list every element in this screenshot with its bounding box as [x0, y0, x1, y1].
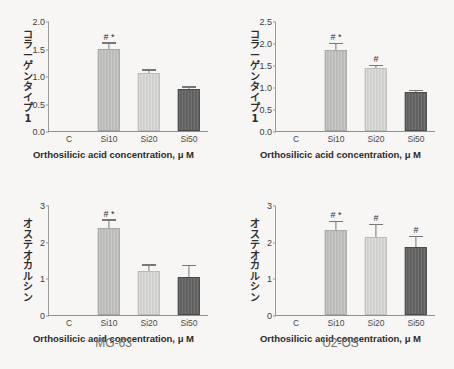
error-bar: [335, 44, 336, 50]
x-axis-tick-label: Si20: [367, 134, 384, 144]
significance-marker: # *: [103, 33, 114, 42]
y-axis-label-char: シ: [247, 282, 263, 293]
x-axis-tick-label: Si50: [407, 134, 424, 144]
bar-slot: C: [49, 22, 89, 131]
error-bar-cap: [142, 264, 156, 265]
error-bar: [108, 44, 109, 49]
x-axis-tick-label: Si50: [180, 318, 197, 328]
plot-area: 0.00.51.01.52.02.5CSi10# *Si20#Si50: [275, 22, 435, 132]
y-axis-label-char: カ: [247, 261, 263, 272]
x-axis-tick-label: Si20: [367, 318, 384, 328]
plot-area: 0123CSi10# *Si20Si50: [48, 206, 208, 316]
y-axis-tick-mark: [273, 132, 276, 133]
bar-slot: Si20: [129, 206, 169, 315]
significance-marker: # *: [330, 211, 341, 220]
y-axis-label-char: テ: [20, 240, 36, 251]
panel-top-right: コラーゲンタイプ10.00.51.01.52.02.5CSi10# *Si20#…: [227, 0, 454, 184]
significance-marker: #: [413, 226, 418, 235]
bar-slot: Si50: [169, 22, 209, 131]
bar: [178, 277, 200, 316]
error-bar: [148, 71, 149, 74]
caption-mg63: MG-63: [0, 336, 227, 350]
error-bar-cap: [142, 69, 156, 70]
bar: [98, 228, 120, 315]
error-bar-cap: [182, 86, 196, 87]
x-axis-title: Orthosilicic acid concentration, μ M: [0, 149, 227, 160]
x-axis-tick-label: Si10: [100, 134, 117, 144]
x-axis-tick-label: Si10: [327, 318, 344, 328]
figure-panel-grid: コラーゲンタイプ10.00.51.01.52.0CSi10# *Si20Si50…: [0, 0, 454, 369]
bar: [178, 89, 200, 131]
x-axis-tick-label: C: [293, 318, 299, 328]
y-axis-label-char: 1: [20, 114, 36, 125]
error-bar-cap: [369, 224, 383, 225]
significance-marker: # *: [103, 210, 114, 219]
bar: [325, 230, 347, 315]
error-bar: [375, 225, 376, 237]
error-bar-cap: [409, 236, 423, 237]
y-axis-label-char: 1: [247, 114, 263, 125]
y-axis-tick-mark: [46, 316, 49, 317]
y-axis-label-char: オ: [247, 219, 263, 230]
error-bar-cap: [329, 221, 343, 222]
bar-slot: Si10# *: [316, 206, 356, 315]
x-axis-tick-label: Si20: [140, 134, 157, 144]
bar: [98, 49, 120, 132]
x-axis-title: Orthosilicic acid concentration, μ M: [227, 149, 454, 160]
significance-marker: #: [373, 214, 378, 223]
error-bar: [375, 66, 376, 68]
bar: [138, 271, 160, 315]
x-axis-tick-label: Si20: [140, 318, 157, 328]
y-axis-tick-mark: [273, 316, 276, 317]
error-bar: [415, 91, 416, 92]
plot-area: 0123CSi10# *Si20#Si50#: [275, 206, 435, 316]
bar-slot: Si20#: [356, 22, 396, 131]
x-axis-tick-label: Si50: [407, 318, 424, 328]
bar: [138, 73, 160, 131]
error-bar: [188, 266, 189, 276]
bar: [365, 68, 387, 131]
bar-slot: Si50: [169, 206, 209, 315]
y-axis-label: オステオカルシン: [20, 219, 36, 303]
caption-u2os: U2-OS: [227, 336, 454, 350]
error-bar: [108, 221, 109, 228]
x-axis-tick-label: Si10: [100, 318, 117, 328]
bar-slot: Si20#: [356, 206, 396, 315]
error-bar-cap: [369, 65, 383, 66]
bar-slot: Si10# *: [89, 206, 129, 315]
y-axis-label: オステオカルシン: [247, 219, 263, 303]
bar-slot: Si10# *: [316, 22, 356, 131]
x-axis-tick-label: C: [66, 318, 72, 328]
y-axis-label-char: テ: [247, 240, 263, 251]
y-axis-tick-mark: [46, 132, 49, 133]
bar: [405, 247, 427, 315]
error-bar: [188, 88, 189, 89]
y-axis-label-char: シ: [20, 282, 36, 293]
bar-slot: C: [49, 206, 89, 315]
error-bar: [148, 266, 149, 272]
error-bar-cap: [409, 90, 423, 91]
panel-bottom-right: オステオカルシン0123CSi10# *Si20#Si50#Orthosilic…: [227, 184, 454, 369]
error-bar: [335, 222, 336, 229]
bar: [325, 50, 347, 131]
x-axis-tick-label: Si10: [327, 134, 344, 144]
x-axis-tick-label: C: [293, 134, 299, 144]
significance-marker: # *: [330, 33, 341, 42]
panel-bottom-left: オステオカルシン0123CSi10# *Si20Si50Orthosilicic…: [0, 184, 227, 369]
bar-slot: C: [276, 206, 316, 315]
y-axis-label-char: カ: [20, 261, 36, 272]
error-bar-cap: [102, 219, 116, 220]
panel-top-left: コラーゲンタイプ10.00.51.01.52.0CSi10# *Si20Si50…: [0, 0, 227, 184]
y-axis-label-char: ン: [20, 293, 36, 304]
y-axis-label-char: オ: [20, 219, 36, 230]
significance-marker: #: [373, 55, 378, 64]
plot-area: 0.00.51.01.52.0CSi10# *Si20Si50: [48, 22, 208, 132]
bar: [365, 237, 387, 315]
y-axis-label-char: ン: [247, 293, 263, 304]
bar: [405, 92, 427, 131]
bar-slot: Si20: [129, 22, 169, 131]
error-bar: [415, 237, 416, 247]
bar-slot: C: [276, 22, 316, 131]
error-bar-cap: [182, 265, 196, 266]
x-axis-tick-label: C: [66, 134, 72, 144]
